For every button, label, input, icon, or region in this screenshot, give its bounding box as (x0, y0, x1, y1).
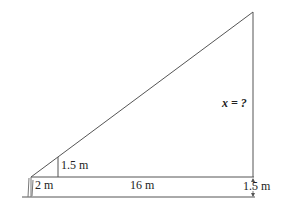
small-height-label: 1.5 m (61, 158, 89, 172)
large-base-label: 16 m (130, 178, 155, 192)
observer-figure-icon (28, 177, 33, 197)
unknown-height-label: x = ? (221, 96, 247, 110)
similar-triangles-diagram: 1.5 m 2 m 16 m 1.5 m x = ? (0, 0, 282, 218)
small-base-label: 2 m (35, 178, 54, 192)
line-of-sight (31, 12, 253, 177)
arrow-down-icon (251, 193, 255, 197)
eye-height-label: 1.5 m (243, 179, 271, 193)
